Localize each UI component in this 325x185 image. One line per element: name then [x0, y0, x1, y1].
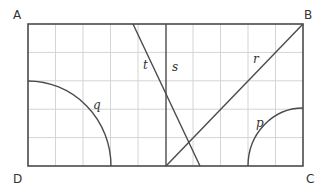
line-r-label: r — [253, 52, 260, 66]
line-r — [166, 24, 303, 166]
vertex-a-label: A — [13, 8, 22, 22]
vertex-c-label: C — [306, 172, 314, 185]
geometry-diagram: A B C D t s r q p — [0, 0, 325, 185]
arc-q — [28, 81, 111, 166]
arc-p-label: p — [256, 116, 264, 130]
vertex-d-label: D — [13, 172, 22, 185]
line-t-label: t — [143, 58, 148, 72]
arc-q-label: q — [93, 98, 101, 112]
line-s-label: s — [172, 60, 178, 74]
vertex-b-label: B — [304, 8, 312, 22]
